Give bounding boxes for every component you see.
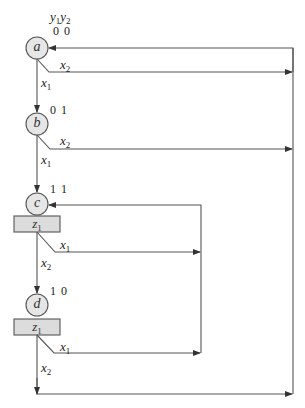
cond-d-x1: x1 — [60, 340, 70, 356]
cond-c-x1: x1 — [60, 238, 70, 254]
cond-d-x2: x2 — [41, 361, 51, 377]
state-d-name: d — [26, 297, 48, 311]
edge-d-x2 — [37, 335, 292, 394]
state-d-code: 1 0 — [50, 285, 68, 297]
state-b-name: b — [26, 116, 48, 130]
cond-c-x2: x2 — [41, 256, 51, 272]
state-b-code: 0 1 — [50, 104, 68, 116]
inner-rail-to-c — [49, 205, 201, 353]
edge-b-x2 — [37, 135, 292, 149]
cond-a-x2: x2 — [60, 58, 70, 74]
cond-a-x1: x1 — [41, 76, 51, 92]
output-d-label: z1 — [14, 320, 60, 336]
state-a-name: a — [26, 40, 48, 54]
output-c-label: z1 — [14, 217, 60, 233]
return-rail-to-a — [49, 48, 293, 72]
cond-b-x1: x1 — [41, 153, 51, 169]
state-c-name: c — [26, 196, 48, 210]
state-c-code: 1 1 — [50, 183, 68, 195]
edge-a-x2 — [37, 59, 292, 72]
state-a-code: 0 0 — [53, 25, 71, 37]
cond-b-x2: x2 — [60, 134, 70, 150]
